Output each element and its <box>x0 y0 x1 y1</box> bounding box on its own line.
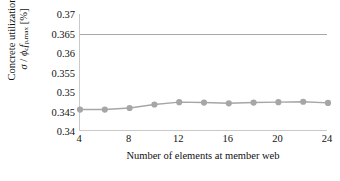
x-tick-label: 16 <box>223 133 234 144</box>
x-tick-label: 4 <box>76 133 81 144</box>
x-tick-label: 8 <box>126 133 131 144</box>
x-tick-label: 12 <box>173 133 184 144</box>
x-axis-title: Number of elements at member web <box>79 150 327 161</box>
x-tick-label: 20 <box>272 133 283 144</box>
x-tick-label: 24 <box>322 133 333 144</box>
chart-container: Concrete utilization σ / ϕcfp,max [%] 0.… <box>0 0 340 181</box>
